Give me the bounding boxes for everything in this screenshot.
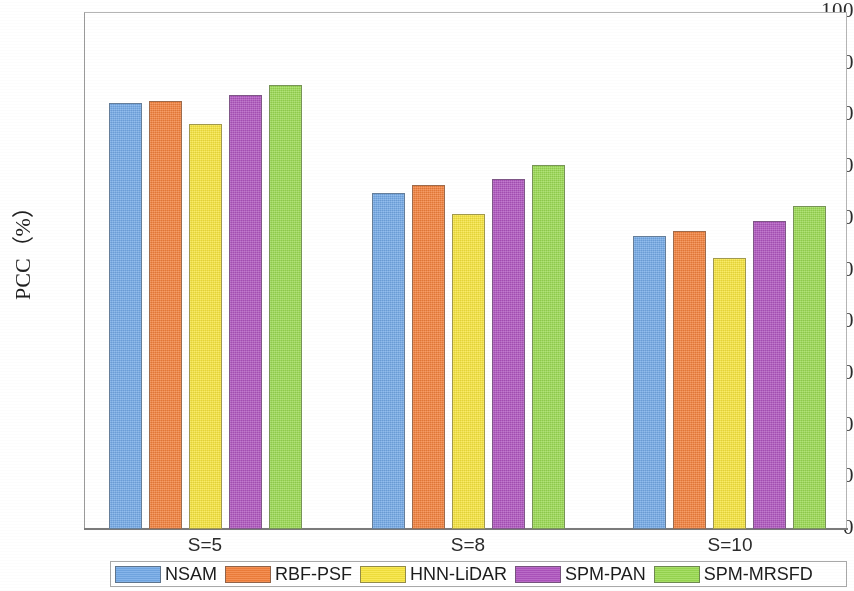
bar bbox=[149, 101, 182, 529]
legend-swatch bbox=[654, 566, 700, 583]
x-axis-tick-label: S=10 bbox=[660, 534, 800, 556]
legend-swatch bbox=[115, 566, 161, 583]
bar bbox=[372, 193, 405, 529]
x-axis-tick-label: S=5 bbox=[135, 534, 275, 556]
legend-swatch bbox=[360, 566, 406, 583]
legend-label: RBF-PSF bbox=[275, 564, 352, 585]
legend-label: SPM-MRSFD bbox=[704, 564, 813, 585]
legend-swatch bbox=[515, 566, 561, 583]
y-axis-title: PCC（%） bbox=[4, 168, 36, 328]
bar bbox=[793, 206, 826, 529]
bar bbox=[452, 214, 485, 529]
legend-item[interactable]: RBF-PSF bbox=[225, 564, 352, 585]
legend-item[interactable]: SPM-MRSFD bbox=[654, 564, 813, 585]
legend-label: NSAM bbox=[165, 564, 217, 585]
bar bbox=[189, 124, 222, 529]
bar-chart: 0102030405060708090100 PCC（%） S=5S=8S=10… bbox=[0, 0, 854, 591]
bar bbox=[269, 85, 302, 529]
legend: NSAMRBF-PSFHNN-LiDARSPM-PANSPM-MRSFD bbox=[110, 561, 847, 587]
bars-layer bbox=[84, 12, 847, 529]
bar bbox=[673, 231, 706, 529]
bar bbox=[713, 258, 746, 529]
bar bbox=[532, 165, 565, 529]
bar bbox=[412, 185, 445, 529]
legend-item[interactable]: SPM-PAN bbox=[515, 564, 646, 585]
bar bbox=[229, 95, 262, 529]
legend-item[interactable]: NSAM bbox=[115, 564, 217, 585]
bar bbox=[109, 103, 142, 529]
legend-label: SPM-PAN bbox=[565, 564, 646, 585]
x-axis-tick-label: S=8 bbox=[398, 534, 538, 556]
legend-item[interactable]: HNN-LiDAR bbox=[360, 564, 507, 585]
bar bbox=[633, 236, 666, 529]
legend-label: HNN-LiDAR bbox=[410, 564, 507, 585]
bar bbox=[753, 221, 786, 529]
bar bbox=[492, 179, 525, 529]
legend-swatch bbox=[225, 566, 271, 583]
